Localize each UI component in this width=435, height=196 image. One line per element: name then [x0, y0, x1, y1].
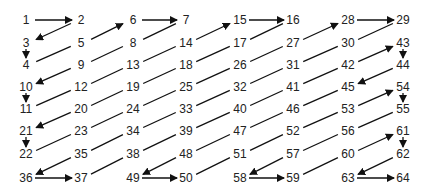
cell-label-10: 10 — [19, 80, 33, 94]
cell-label-27: 27 — [286, 36, 300, 50]
scan-step-46-to-47 — [250, 113, 283, 128]
cell-label-30: 30 — [341, 36, 355, 50]
scan-step-14-to-15 — [196, 24, 230, 40]
scan-step-2-to-3 — [36, 24, 71, 40]
cell-label-14: 14 — [179, 36, 193, 50]
scan-step-55-to-56 — [358, 112, 393, 127]
scan-step-44-to-45 — [358, 68, 393, 83]
cell-label-16: 16 — [286, 13, 300, 27]
zigzag-diagram: 1267151628293581417273043491318263142441… — [0, 0, 435, 196]
scan-step-24-to-25 — [143, 91, 176, 106]
cell-label-36: 36 — [19, 171, 33, 185]
scan-step-9-to-10 — [36, 68, 71, 83]
cell-label-58: 58 — [233, 171, 247, 185]
cell-label-28: 28 — [341, 13, 355, 27]
scan-step-17-to-18 — [196, 46, 230, 61]
cell-label-54: 54 — [396, 80, 410, 94]
cell-label-44: 44 — [396, 58, 410, 72]
scan-step-53-to-54 — [358, 90, 393, 105]
cell-label-53: 53 — [341, 102, 355, 116]
scan-step-62-to-63 — [358, 158, 393, 175]
cell-label-31: 31 — [286, 58, 300, 72]
scan-step-12-to-13 — [91, 69, 123, 84]
scan-step-22-to-23 — [36, 135, 71, 151]
scan-step-11-to-12 — [36, 90, 71, 105]
cell-label-46: 46 — [286, 102, 300, 116]
cell-label-20: 20 — [74, 102, 88, 116]
cell-label-41: 41 — [286, 80, 300, 94]
cell-labels: 1267151628293581417273043491318263142441… — [19, 13, 410, 185]
scan-step-59-to-60 — [303, 158, 338, 175]
cell-label-39: 39 — [179, 124, 193, 138]
cell-label-25: 25 — [179, 80, 193, 94]
cell-label-47: 47 — [233, 124, 247, 138]
cell-label-57: 57 — [286, 147, 300, 161]
cell-label-64: 64 — [396, 171, 410, 185]
scan-step-20-to-21 — [36, 112, 71, 127]
cell-label-22: 22 — [19, 147, 33, 161]
scan-step-33-to-34 — [143, 113, 176, 128]
scan-step-19-to-20 — [91, 91, 123, 106]
cell-label-60: 60 — [341, 147, 355, 161]
cell-label-5: 5 — [78, 36, 85, 50]
scan-step-4-to-5 — [36, 46, 71, 61]
cell-label-26: 26 — [233, 58, 247, 72]
scan-step-16-to-17 — [250, 24, 283, 40]
cell-label-18: 18 — [179, 58, 193, 72]
cell-label-50: 50 — [179, 171, 193, 185]
scan-step-5-to-6 — [91, 24, 123, 40]
scan-step-23-to-24 — [91, 113, 123, 128]
cell-label-43: 43 — [396, 36, 410, 50]
scan-step-13-to-14 — [143, 47, 176, 62]
cell-label-34: 34 — [126, 124, 140, 138]
cell-label-7: 7 — [183, 13, 190, 27]
cell-label-38: 38 — [126, 147, 140, 161]
scan-step-29-to-30 — [358, 24, 393, 40]
cell-label-45: 45 — [341, 80, 355, 94]
scan-step-51-to-52 — [250, 135, 283, 151]
scan-step-48-to-49 — [143, 158, 176, 175]
cell-label-8: 8 — [130, 36, 137, 50]
scan-step-40-to-41 — [250, 91, 283, 106]
scan-step-37-to-38 — [91, 158, 123, 174]
cell-label-62: 62 — [396, 147, 410, 161]
scan-step-7-to-8 — [143, 24, 176, 40]
cell-label-9: 9 — [78, 58, 85, 72]
cell-label-33: 33 — [179, 102, 193, 116]
cell-label-35: 35 — [74, 147, 88, 161]
cell-label-61: 61 — [396, 124, 410, 138]
scan-step-27-to-28 — [303, 24, 338, 40]
cell-label-56: 56 — [341, 124, 355, 138]
cell-label-2: 2 — [78, 13, 85, 27]
cell-label-63: 63 — [341, 171, 355, 185]
cell-label-15: 15 — [233, 13, 247, 27]
cell-label-55: 55 — [396, 102, 410, 116]
scan-step-60-to-61 — [358, 135, 393, 151]
cell-label-21: 21 — [19, 124, 33, 138]
cell-label-11: 11 — [20, 102, 33, 116]
cell-label-6: 6 — [130, 13, 137, 27]
cell-label-59: 59 — [286, 171, 300, 185]
scan-step-52-to-53 — [303, 112, 338, 127]
scan-step-8-to-9 — [91, 47, 123, 62]
cell-label-52: 52 — [286, 124, 300, 138]
scan-step-41-to-42 — [303, 68, 338, 83]
cell-label-49: 49 — [126, 171, 140, 185]
cell-label-17: 17 — [233, 36, 247, 50]
cell-label-48: 48 — [179, 147, 193, 161]
cell-label-4: 4 — [23, 58, 30, 72]
scan-step-35-to-36 — [36, 158, 71, 175]
scan-step-45-to-46 — [303, 90, 338, 105]
scan-step-18-to-19 — [143, 69, 176, 84]
cell-label-19: 19 — [126, 80, 140, 94]
scan-step-42-to-43 — [358, 46, 393, 61]
cell-label-42: 42 — [341, 58, 355, 72]
cell-label-51: 51 — [233, 147, 247, 161]
cell-label-1: 1 — [23, 13, 30, 27]
scan-step-39-to-40 — [196, 112, 230, 127]
cell-label-13: 13 — [126, 58, 140, 72]
scan-step-30-to-31 — [303, 46, 338, 61]
cell-label-24: 24 — [126, 102, 140, 116]
cell-label-12: 12 — [74, 80, 88, 94]
cell-label-32: 32 — [233, 80, 247, 94]
